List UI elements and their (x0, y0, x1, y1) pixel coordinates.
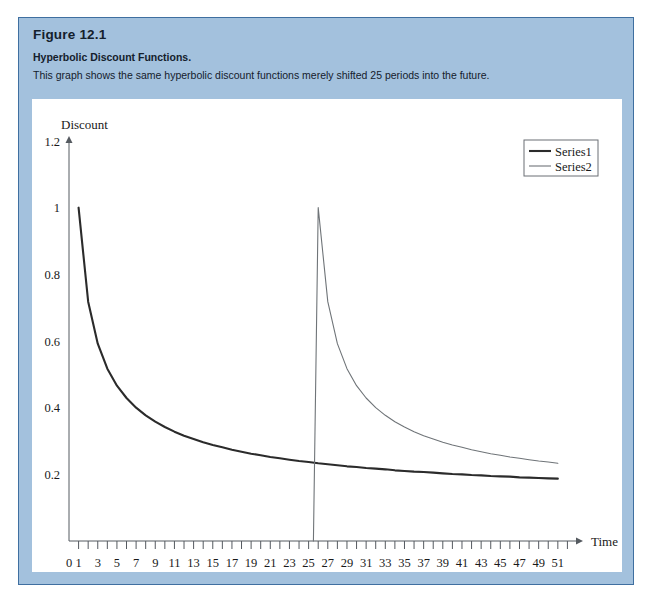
x-tick-label: 49 (532, 556, 545, 570)
x-tick-label: 51 (552, 556, 565, 570)
discount-function-chart: 0135791113151719212325272931333537394143… (32, 99, 622, 572)
figure-header: Figure 12.1 Hyperbolic Discount Function… (33, 28, 613, 81)
x-tick-label: 1 (75, 556, 81, 570)
x-tick-label: 15 (207, 556, 220, 570)
x-tick-label: 27 (322, 556, 335, 570)
series-group (79, 208, 558, 541)
x-tick-label: 43 (475, 556, 488, 570)
x-tick-label: 45 (494, 556, 507, 570)
figure-number: Figure 12.1 (33, 28, 613, 43)
x-tick-label: 17 (226, 556, 239, 570)
x-axis-title: Time (591, 534, 618, 549)
x-tick-label: 23 (283, 556, 296, 570)
x-tick-label: 11 (168, 556, 180, 570)
figure-subtitle: Hyperbolic Discount Functions. (33, 52, 613, 64)
y-tick-label: 1.2 (44, 135, 60, 149)
x-tick-label: 47 (513, 556, 526, 570)
x-tick-label: 9 (152, 556, 158, 570)
legend-label-series2: Series2 (555, 160, 592, 174)
x-tick-label: 0 (66, 556, 72, 570)
x-tick-label: 41 (456, 556, 469, 570)
axes-group (66, 136, 584, 545)
chart-legend: Series1Series2 (524, 140, 598, 176)
y-axis-title: Discount (61, 117, 108, 132)
y-axis-arrow-icon (66, 136, 73, 143)
y-axis-tick-labels: 1.210.80.60.40.2 (44, 135, 60, 482)
x-tick-label: 21 (264, 556, 277, 570)
y-tick-label: 0.6 (44, 335, 60, 349)
legend-label-series1: Series1 (555, 145, 592, 159)
x-tick-label: 25 (302, 556, 315, 570)
y-tick-label: 1 (54, 201, 60, 215)
x-tick-label: 7 (133, 556, 139, 570)
axis-ticks-group (79, 541, 568, 549)
x-axis-arrow-icon (576, 538, 583, 545)
y-tick-label: 0.8 (44, 268, 60, 282)
axis-titles-group: DiscountTime (61, 117, 618, 549)
figure-panel: Figure 12.1 Hyperbolic Discount Function… (18, 17, 634, 585)
series-line-series2 (313, 208, 557, 541)
figure-root: Figure 12.1 Hyperbolic Discount Function… (0, 0, 652, 602)
x-tick-label: 13 (187, 556, 200, 570)
x-axis-tick-labels: 0135791113151719212325272931333537394143… (66, 556, 564, 570)
y-tick-label: 0.2 (44, 468, 60, 482)
x-tick-label: 35 (398, 556, 411, 570)
y-tick-label: 0.4 (44, 401, 60, 415)
x-tick-label: 33 (379, 556, 392, 570)
x-tick-label: 3 (95, 556, 101, 570)
x-tick-label: 19 (245, 556, 258, 570)
figure-caption: This graph shows the same hyperbolic dis… (33, 69, 613, 81)
x-tick-label: 31 (360, 556, 373, 570)
series-line-series1 (79, 208, 558, 479)
x-tick-label: 29 (341, 556, 354, 570)
x-tick-label: 37 (417, 556, 430, 570)
x-tick-label: 5 (114, 556, 120, 570)
plot-canvas: 0135791113151719212325272931333537394143… (32, 99, 622, 572)
x-tick-label: 39 (437, 556, 450, 570)
